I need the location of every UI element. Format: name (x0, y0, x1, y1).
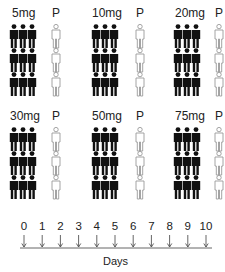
person-group-filled-icon (91, 48, 119, 73)
person-group-filled-icon (173, 72, 201, 97)
person-outline-icon (50, 175, 62, 200)
person-group-filled-icon (173, 127, 201, 152)
person-outline-icon (134, 151, 146, 176)
person-outline-icon (213, 24, 225, 49)
person-group-filled-icon (91, 127, 119, 152)
person-group-filled-icon (173, 48, 201, 73)
person-group-filled-icon (173, 151, 201, 176)
person-group-filled-icon (91, 175, 119, 200)
person-group-filled-icon (91, 72, 119, 97)
person-group-filled-icon (173, 24, 201, 49)
person-outline-icon (50, 48, 62, 73)
person-group-filled-icon (9, 48, 37, 73)
person-group-filled-icon (91, 24, 119, 49)
person-outline-icon (213, 127, 225, 152)
person-outline-icon (134, 48, 146, 73)
person-outline-icon (50, 127, 62, 152)
person-group-filled-icon (9, 151, 37, 176)
person-outline-icon (134, 127, 146, 152)
person-outline-icon (213, 72, 225, 97)
person-group-filled-icon (9, 24, 37, 49)
person-outline-icon (50, 72, 62, 97)
person-outline-icon (134, 24, 146, 49)
person-outline-icon (213, 151, 225, 176)
person-outline-icon (213, 48, 225, 73)
person-group-filled-icon (173, 175, 201, 200)
person-outline-icon (134, 175, 146, 200)
axis-label-days: Days (103, 255, 128, 267)
person-group-filled-icon (9, 175, 37, 200)
person-group-filled-icon (91, 151, 119, 176)
person-outline-icon (134, 72, 146, 97)
person-outline-icon (213, 175, 225, 200)
person-group-filled-icon (9, 72, 37, 97)
person-outline-icon (50, 24, 62, 49)
person-group-filled-icon (9, 127, 37, 152)
person-outline-icon (50, 151, 62, 176)
